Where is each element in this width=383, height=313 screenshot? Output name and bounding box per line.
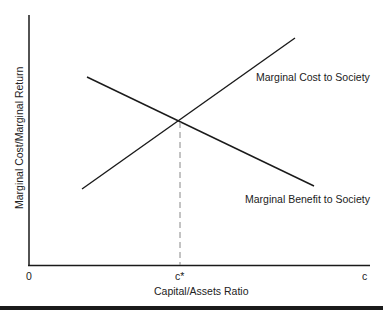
marginal-benefit-label: Marginal Benefit to Society [245,193,370,205]
marginal-cost-line [82,38,295,189]
x-tick-0: 0 [26,270,32,282]
marginal-benefit-line [87,77,314,186]
x-axis-label: Capital/Assets Ratio [154,285,249,297]
y-axis-label: Marginal Cost/Marginal Return [13,67,25,209]
chart-canvas [0,0,383,313]
bottom-rule [0,306,383,310]
x-tick-cstar: c* [175,270,184,282]
x-tick-c: c [362,270,367,282]
marginal-cost-label: Marginal Cost to Society [256,71,370,83]
